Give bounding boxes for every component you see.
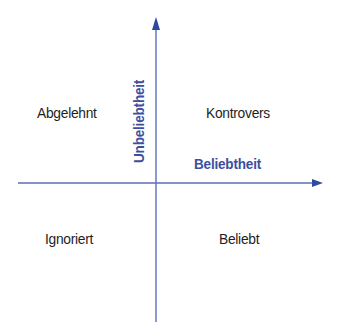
quadrant-label-ignoriert: Ignoriert (45, 230, 93, 247)
quadrant-label-kontrovers: Kontrovers (206, 104, 270, 121)
x-axis-arrow-icon (312, 179, 323, 187)
quadrant-axes (0, 0, 345, 334)
y-axis-label: Unbeliebtheit (130, 80, 147, 163)
quadrant-label-abgelehnt: Abgelehnt (37, 104, 97, 121)
x-axis-label: Beliebtheit (194, 155, 261, 172)
y-axis-arrow-icon (152, 17, 160, 30)
quadrant-label-beliebt: Beliebt (219, 230, 259, 247)
